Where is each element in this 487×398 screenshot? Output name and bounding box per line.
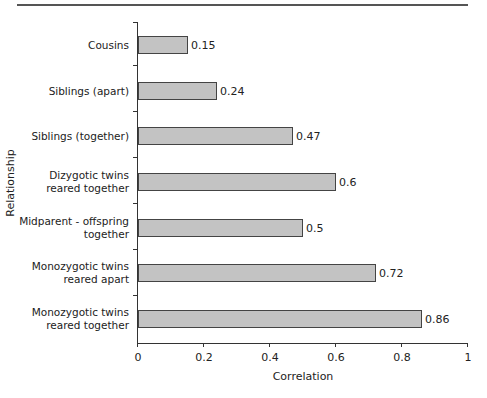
x-tick-label: 1 xyxy=(465,351,472,364)
x-tick-label: 0.8 xyxy=(393,351,411,364)
y-tick xyxy=(133,203,137,204)
y-axis-title: Relationship xyxy=(4,149,17,217)
x-tick-label: 0.2 xyxy=(195,351,213,364)
bar-midparent-offspring xyxy=(138,219,303,237)
x-axis-line xyxy=(137,343,468,344)
x-tick xyxy=(203,343,204,347)
x-tick-label: 0.4 xyxy=(261,351,279,364)
bar-dizygotic-twins xyxy=(138,173,336,191)
category-label: Midparent - offspringtogether xyxy=(19,215,129,241)
value-label: 0.86 xyxy=(425,313,450,326)
x-tick-label: 0.6 xyxy=(327,351,345,364)
y-tick xyxy=(133,111,137,112)
y-tick xyxy=(133,65,137,66)
y-tick xyxy=(133,22,137,23)
category-label: Siblings (together) xyxy=(31,130,129,143)
value-label: 0.47 xyxy=(296,130,321,143)
x-tick xyxy=(269,343,270,347)
y-tick xyxy=(133,295,137,296)
x-tick xyxy=(137,343,138,347)
y-tick xyxy=(133,249,137,250)
value-label: 0.15 xyxy=(191,39,216,52)
category-label: Monozygotic twinsreared apart xyxy=(32,260,129,286)
category-label: Cousins xyxy=(88,39,129,52)
y-tick xyxy=(133,157,137,158)
x-tick xyxy=(335,343,336,347)
category-label: Monozygotic twinsreared together xyxy=(32,306,129,332)
bar-mz-twins-apart xyxy=(138,264,376,282)
bar-cousins xyxy=(138,36,188,54)
value-label: 0.72 xyxy=(379,267,404,280)
category-label: Dizygotic twinsreared together xyxy=(46,169,129,195)
value-label: 0.24 xyxy=(220,85,245,98)
bar-mz-twins-together xyxy=(138,310,422,328)
x-tick xyxy=(401,343,402,347)
value-label: 0.6 xyxy=(339,176,357,189)
x-axis-title: Correlation xyxy=(273,370,334,383)
top-rule xyxy=(17,4,468,6)
bar-siblings-together xyxy=(138,127,293,145)
category-label: Siblings (apart) xyxy=(49,85,129,98)
x-tick-label: 0 xyxy=(135,351,142,364)
value-label: 0.5 xyxy=(306,222,324,235)
bar-siblings-apart xyxy=(138,82,217,100)
x-tick xyxy=(467,343,468,347)
